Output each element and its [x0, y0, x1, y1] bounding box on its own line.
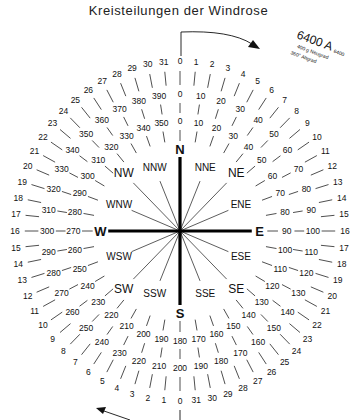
mils-ring-label: 6: [86, 367, 91, 377]
grads-ring-label: 270: [55, 288, 69, 298]
grads-ring-tick: [198, 105, 200, 115]
direction-label-ssw: SSW: [143, 288, 166, 299]
mils-ring-label: 20: [328, 291, 338, 301]
grads-ring-label: 250: [79, 323, 93, 333]
mils-ring-tick: [234, 83, 239, 96]
grads-ring-label: 190: [194, 361, 208, 371]
grads-ring-tick: [80, 156, 88, 162]
grads-ring-label: 30: [236, 104, 246, 114]
degrees-ring-tick: [84, 247, 95, 249]
mils-ring-tick: [234, 366, 239, 379]
degrees-ring-tick: [262, 262, 272, 266]
grads-ring-tick: [92, 314, 99, 321]
degrees-ring-tick: [163, 320, 165, 331]
grads-ring-label: 340: [65, 145, 79, 155]
mils-ring-tick: [28, 259, 41, 262]
mils-ring-tick: [60, 129, 70, 138]
grads-ring-label: 180: [214, 356, 228, 366]
grads-ring-label: 280: [47, 268, 61, 278]
grads-ring-label: 150: [267, 323, 281, 333]
degrees-ring-tick: [146, 316, 150, 326]
degrees-ring-label: 130: [255, 297, 269, 307]
mils-ring-tick: [298, 142, 309, 150]
mils-ring-label: 21: [321, 306, 331, 316]
mils-ring-tick: [319, 200, 332, 203]
degrees-ring-tick: [105, 166, 113, 173]
mils-ring-tick: [311, 170, 324, 175]
mils-ring-tick: [37, 287, 50, 292]
mils-ring-label: 16: [340, 226, 350, 236]
degrees-ring-label: 0: [178, 116, 183, 126]
mils-ring-label: 13: [333, 177, 343, 187]
mils-ring-label: 10: [312, 132, 322, 142]
mils-ring-tick: [319, 259, 332, 262]
mils-ring-tick: [165, 72, 166, 86]
mils-ring-label: 7: [282, 95, 287, 105]
mils-ring-tick: [280, 118, 290, 128]
degrees-ring-label: 180: [173, 336, 187, 346]
degrees-ring-tick: [210, 136, 214, 146]
ray-nw: [133, 183, 180, 231]
mils-ring-label: 1: [161, 395, 166, 405]
grads-ring-tick: [215, 109, 218, 119]
grads-ring-tick: [282, 285, 291, 290]
degrees-ring-label: 70: [276, 188, 286, 198]
degrees-ring-tick: [88, 196, 98, 200]
grads-ring-tick: [282, 173, 291, 178]
mils-ring-tick: [194, 376, 195, 390]
degrees-ring-tick: [256, 181, 265, 187]
grads-ring-tick: [107, 326, 113, 334]
degrees-ring-tick: [247, 166, 255, 173]
mils-ring-label: 1: [194, 57, 199, 67]
grads-ring-label: 360: [95, 115, 109, 125]
mils-ring-tick: [221, 78, 225, 91]
mils-ring-label: 2: [145, 393, 150, 403]
mils-ring-label: 23: [48, 118, 58, 128]
degrees-ring-tick: [84, 213, 95, 215]
mils-ring-label: 18: [337, 259, 347, 269]
degrees-ring-label: 200: [136, 329, 150, 339]
mils-ring-label: 0: [178, 396, 183, 406]
grads-ring-tick: [161, 105, 163, 115]
grads-ring-label: 330: [55, 164, 69, 174]
mils-ring-tick: [94, 352, 102, 364]
degrees-ring-label: 50: [257, 155, 267, 165]
mils-ring-tick: [31, 185, 44, 189]
mils-ring-label: 3: [130, 389, 135, 399]
grads-ring-label: 390: [152, 91, 166, 101]
grads-ring-tick: [261, 140, 268, 147]
grads-ring-tick: [232, 336, 236, 345]
mils-ring-label: 15: [11, 243, 21, 253]
mils-ring-label: 30: [143, 59, 153, 69]
degrees-ring-label: 340: [136, 123, 150, 133]
grads-ring-label: 200: [173, 363, 187, 373]
direction-label-nnw: NNW: [143, 162, 167, 173]
grads-ring-label: 370: [113, 104, 127, 114]
grads-ring-tick: [92, 140, 99, 147]
degrees-ring-label: 160: [209, 329, 223, 339]
degrees-ring-label: 80: [280, 207, 290, 217]
mils-ring-tick: [70, 118, 80, 128]
degrees-ring-label: 30: [229, 131, 239, 141]
grads-ring-tick: [57, 249, 67, 251]
mils-ring-tick: [316, 185, 329, 189]
grads-ring-label: 10: [196, 91, 206, 101]
mils-ring-tick: [28, 200, 41, 203]
ray-sw: [133, 231, 180, 279]
mils-ring-label: 27: [253, 376, 263, 386]
mils-ring-label: 6: [269, 85, 274, 95]
grads-ring-tick: [142, 343, 145, 353]
mils-ring-tick: [208, 374, 211, 388]
grads-ring-label: 60: [283, 145, 293, 155]
grads-ring-label: 70: [294, 164, 304, 174]
mils-ring-tick: [51, 312, 62, 320]
mils-ring-label: 25: [280, 357, 290, 367]
grads-ring-label: 40: [253, 115, 263, 125]
mils-ring-label: 15: [339, 209, 349, 219]
degrees-ring-label: 170: [191, 334, 205, 344]
mils-ring-tick: [121, 83, 126, 96]
degrees-ring-tick: [117, 154, 124, 162]
mils-ring-label: 2: [210, 59, 215, 69]
mils-ring-label: 28: [238, 383, 248, 393]
mils-ring-label: 29: [127, 63, 137, 73]
